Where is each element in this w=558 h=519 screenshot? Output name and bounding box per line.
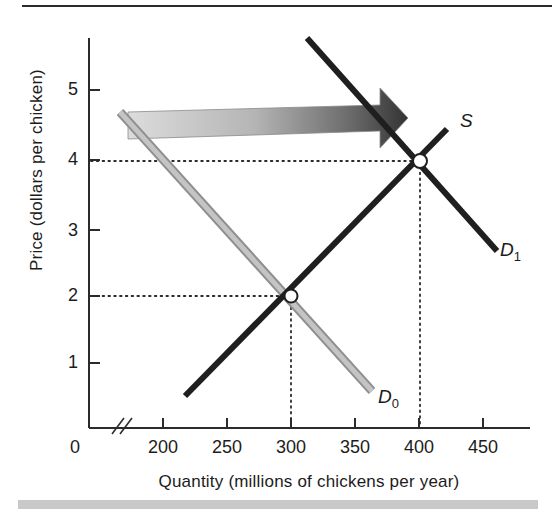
demand-curve-d1: [307, 38, 497, 251]
supply-demand-figure: Price (dollars per chicken) Quantity (mi…: [0, 0, 558, 519]
x-axis-break-mark: [112, 418, 132, 434]
original-equilibrium-point: [285, 290, 298, 303]
x-axis-ticks: [163, 418, 483, 428]
plot-canvas: [0, 0, 558, 519]
supply-curve: [185, 129, 447, 396]
demand-curve-d0: [120, 112, 372, 391]
new-equilibrium-point: [413, 154, 427, 168]
demand-shift-arrow: [128, 88, 408, 148]
y-axis-ticks: [89, 90, 100, 363]
